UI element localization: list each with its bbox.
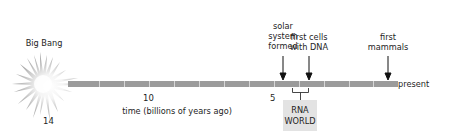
tick-label-5: 5	[270, 93, 275, 103]
event-first-mammals: first mammals	[363, 32, 413, 52]
arrow-solar-system-icon	[280, 56, 286, 80]
present-label: present	[398, 79, 429, 89]
event-label-line: mammals	[363, 42, 413, 52]
rna-world-line: WORLD	[284, 116, 315, 127]
rna-world-line: RNA	[291, 105, 308, 116]
big-bang-label: Big Bang	[24, 38, 64, 48]
timeline-bar	[68, 81, 398, 87]
event-label-line: first	[363, 32, 413, 42]
event-label-line: first cells	[284, 32, 334, 42]
tick-label-10: 10	[143, 93, 154, 103]
rna-world-bracket	[293, 88, 309, 100]
event-first-cells: first cells with DNA	[284, 32, 334, 52]
event-label-line: solar	[258, 21, 308, 31]
rna-world-box: RNA WORLD	[283, 100, 317, 131]
event-label-line: with DNA	[284, 42, 334, 52]
tick-label-14: 14	[43, 116, 54, 126]
timeline-graphic	[0, 0, 456, 139]
arrow-first-mammals-icon	[385, 56, 391, 80]
arrow-first-cells-icon	[306, 56, 312, 80]
axis-label: time (billions of years ago)	[107, 106, 247, 116]
